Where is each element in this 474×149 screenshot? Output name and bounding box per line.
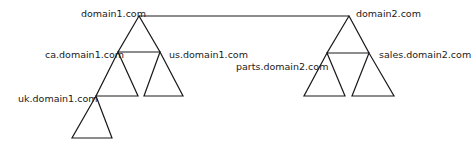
label-uk-domain1: uk.domain1.com [18,94,97,104]
label-ca-domain1: ca.domain1.com [45,50,124,60]
label-parts-domain2: parts.domain2.com [236,62,328,72]
label-domain1: domain1.com [81,9,146,19]
parts-domain2-triangle [304,53,345,96]
label-us-domain1: us.domain1.com [169,50,248,60]
domain2-triangle [327,16,369,53]
domain1-triangle [118,16,160,52]
label-domain2: domain2.com [356,9,421,19]
domain-tree-diagram [0,0,474,149]
label-sales-domain2: sales.domain2.com [379,50,471,60]
